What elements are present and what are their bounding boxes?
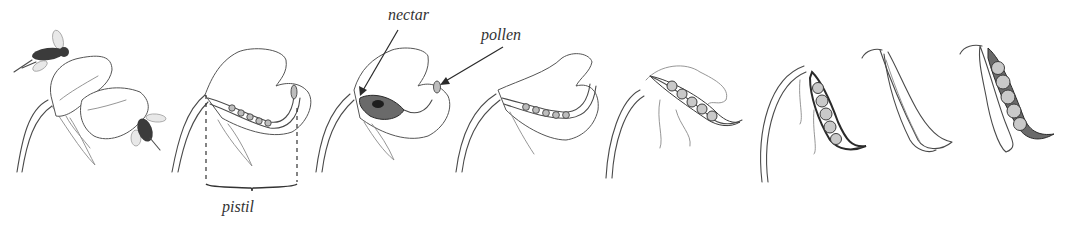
stage-6-hanging-pod — [761, 66, 866, 182]
pollen-label: pollen — [481, 26, 521, 44]
stage-8-open-pod — [960, 45, 1054, 152]
nectar-label: nectar — [388, 6, 429, 24]
stage-4-elongating-ovary — [456, 54, 598, 172]
pistil-brace — [206, 184, 297, 191]
stage-7-closed-pod — [862, 49, 952, 151]
stage-2-pistil-cutaway — [172, 49, 311, 191]
stage-1-open-flower — [14, 29, 166, 172]
pistil-label: pistil — [222, 198, 254, 216]
stage-5-young-pod — [606, 66, 742, 178]
stage-3-nectar-pollen-cutaway — [316, 30, 503, 172]
pollen-arrow — [440, 47, 503, 85]
pea-pollination-diagram: nectar pollen pistil — [0, 0, 1067, 225]
